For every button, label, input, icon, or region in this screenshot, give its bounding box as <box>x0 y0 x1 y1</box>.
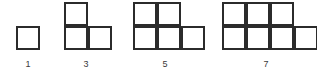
figure-1-cell-r2-c1 <box>16 26 40 50</box>
figure-4-cell-r2-c1 <box>222 26 246 50</box>
figure-4-cell-r1-c3 <box>270 2 294 26</box>
figure-4-label: 7 <box>256 59 276 70</box>
figure-3-label: 5 <box>155 59 175 70</box>
figure-3-cell-r1-c2 <box>157 2 181 26</box>
figure-sequence-diagram: 1357 <box>0 0 317 79</box>
figure-3-cell-r2-c1 <box>133 26 157 50</box>
figure-2-label: 3 <box>76 59 96 70</box>
figure-4-cell-r1-c1 <box>222 2 246 26</box>
figure-2-cell-r2-c2 <box>88 26 112 50</box>
figure-3-cell-r1-c1 <box>133 2 157 26</box>
figure-1-label: 1 <box>18 59 38 70</box>
figure-4-cell-r2-c3 <box>270 26 294 50</box>
figure-4-cell-r1-c2 <box>246 2 270 26</box>
figure-3-cell-r2-c3 <box>181 26 205 50</box>
figure-2-cell-r1-c1 <box>64 2 88 26</box>
figure-4-cell-r2-c2 <box>246 26 270 50</box>
figure-4-cell-r2-c4 <box>294 26 317 50</box>
figure-2-cell-r2-c1 <box>64 26 88 50</box>
figure-3-cell-r2-c2 <box>157 26 181 50</box>
